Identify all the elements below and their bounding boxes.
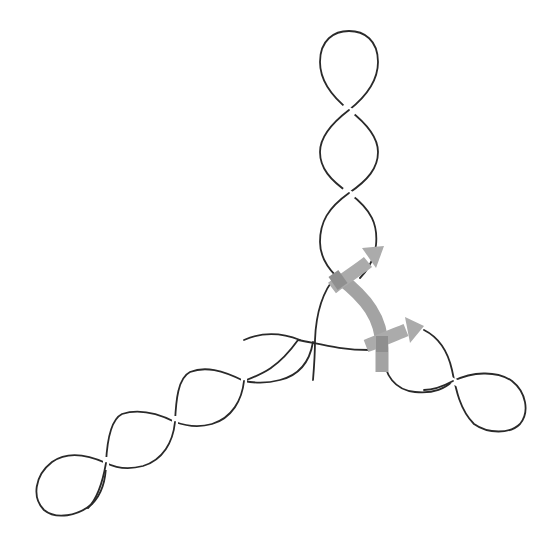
right-arm: [424, 330, 526, 432]
twisted-strand-junction: [0, 0, 556, 551]
diagram-canvas: [0, 0, 556, 551]
top-arm: [320, 31, 378, 278]
curved-band: [340, 278, 382, 372]
arrow-bands: [328, 246, 424, 372]
lower-left-arm: [36, 340, 313, 516]
